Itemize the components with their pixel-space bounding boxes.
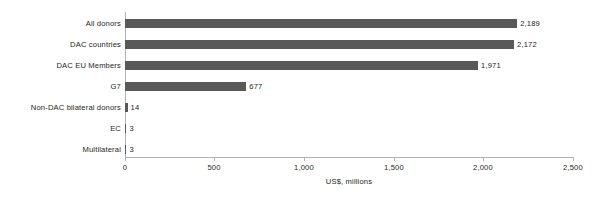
bar-all-donors	[125, 19, 517, 28]
x-tick-mark-2500	[573, 158, 574, 161]
bar-value-dac-eu-members: 1,971	[481, 61, 501, 71]
bar-value-dac-countries: 2,172	[517, 40, 537, 50]
x-tick-mark-0	[125, 158, 126, 161]
x-axis-title: US$, millions	[326, 177, 372, 187]
x-axis-line	[125, 157, 574, 158]
bar-value-multilateral: 3	[130, 145, 134, 155]
x-tick-label-1500: 1,500	[364, 163, 424, 173]
x-tick-label-1000: 1,000	[274, 163, 334, 173]
x-tick-label-0: 0	[95, 163, 155, 173]
bar-dac-countries	[125, 40, 514, 49]
bar-chart: All donors DAC countries DAC EU Members …	[0, 0, 603, 197]
x-tick-mark-2000	[483, 158, 484, 161]
x-tick-mark-1000	[304, 158, 305, 161]
x-tick-label-2500: 2,500	[543, 163, 603, 173]
bar-ec	[125, 124, 126, 133]
x-tick-label-500: 500	[184, 163, 244, 173]
x-tick-label-2000: 2,000	[453, 163, 513, 173]
plot-area: 2,189 2,172 1,971 677 14 3 3	[125, 12, 573, 157]
bar-value-g7: 677	[249, 82, 262, 92]
bar-value-all-donors: 2,189	[520, 19, 540, 29]
category-label-all-donors: All donors	[0, 19, 121, 28]
bar-value-non-dac-bilateral-donors: 14	[131, 103, 140, 113]
category-label-g7: G7	[0, 82, 121, 91]
bar-non-dac-bilateral-donors	[125, 103, 128, 112]
bar-dac-eu-members	[125, 61, 478, 70]
bar-g7	[125, 82, 246, 91]
category-label-dac-countries: DAC countries	[0, 40, 121, 49]
category-label-multilateral: Multilateral	[0, 145, 121, 154]
category-label-non-dac-bilateral-donors: Non-DAC bilateral donors	[0, 103, 121, 112]
category-label-ec: EC	[0, 124, 121, 133]
bar-multilateral	[125, 145, 126, 154]
x-tick-mark-500	[214, 158, 215, 161]
x-tick-mark-1500	[394, 158, 395, 161]
bar-value-ec: 3	[130, 124, 134, 134]
category-label-dac-eu-members: DAC EU Members	[0, 61, 121, 70]
